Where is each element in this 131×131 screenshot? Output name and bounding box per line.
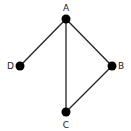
node-d <box>16 62 25 71</box>
node-a <box>62 15 71 24</box>
edge-b-c <box>66 66 112 112</box>
graph-svg: ABCD <box>0 0 131 131</box>
node-label-c: C <box>63 120 69 130</box>
node-b <box>108 62 117 71</box>
edge-a-b <box>66 19 112 66</box>
edge-a-d <box>20 19 66 66</box>
graph-diagram: ABCD <box>0 0 131 131</box>
node-c <box>62 108 71 117</box>
edges <box>20 19 112 112</box>
node-label-a: A <box>63 3 70 13</box>
node-label-d: D <box>7 61 14 71</box>
node-label-b: B <box>118 61 124 71</box>
